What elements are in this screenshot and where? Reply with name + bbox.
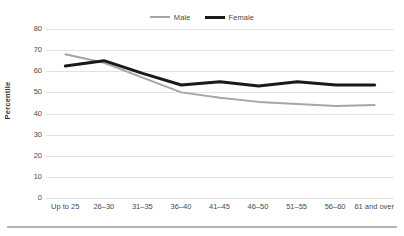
- y-tick-label: 10: [16, 173, 42, 181]
- legend-label-female: Female: [229, 13, 255, 22]
- legend-swatch-female-icon: [205, 16, 225, 19]
- x-tick-label: 56–60: [316, 201, 355, 217]
- chart-legend: Male Female: [0, 9, 404, 25]
- y-tick-label: 60: [16, 68, 42, 76]
- x-tick-label: Up to 25: [46, 201, 85, 217]
- y-axis-tick-labels: 80706050403020100: [16, 0, 42, 236]
- y-tick-label: 0: [16, 194, 42, 202]
- y-tick-label: 40: [16, 110, 42, 118]
- series-lines: [65, 54, 374, 106]
- legend-label-male: Male: [174, 13, 191, 22]
- y-axis-title-text: Percentile: [4, 81, 13, 119]
- y-tick-label: 20: [16, 152, 42, 160]
- gridlines: [46, 30, 394, 199]
- x-tick-label: 26–30: [85, 201, 124, 217]
- legend-entry-male: Male: [150, 13, 191, 22]
- plot-area: [46, 29, 394, 198]
- y-tick-label: 80: [16, 25, 42, 33]
- y-axis-title: Percentile: [1, 0, 15, 200]
- series-line-female: [65, 61, 374, 86]
- x-tick-label: 46–50: [239, 201, 278, 217]
- x-tick-label: 61 and over: [354, 201, 394, 217]
- x-tick-label: 31–35: [123, 201, 162, 217]
- line-chart: Male Female Percentile 80706050403020100…: [0, 0, 404, 236]
- x-axis-tick-labels: Up to 2526–3031–3536–4041–4546–5051–5556…: [46, 201, 394, 217]
- y-tick-label: 30: [16, 131, 42, 139]
- bottom-divider: [7, 226, 397, 228]
- y-tick-label: 70: [16, 46, 42, 54]
- legend-entry-female: Female: [205, 13, 255, 22]
- plot-svg: [46, 29, 394, 198]
- legend-swatch-male-icon: [150, 16, 170, 18]
- x-tick-label: 36–40: [162, 201, 201, 217]
- x-tick-label: 41–45: [200, 201, 239, 217]
- y-tick-label: 50: [16, 89, 42, 97]
- x-tick-label: 51–55: [277, 201, 316, 217]
